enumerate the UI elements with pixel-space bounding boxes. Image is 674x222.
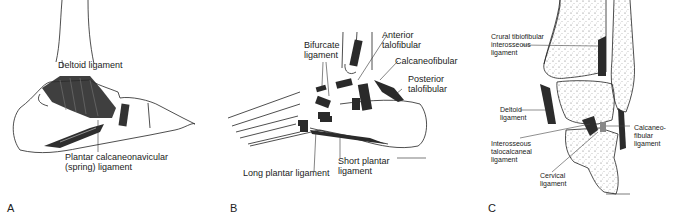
label-bifurcate-ligament: Bifurcate ligament xyxy=(304,40,340,60)
panel-c-drawing xyxy=(544,0,635,194)
label-anterior-talofibular: Anterior talofibular xyxy=(382,30,421,50)
label-spring-ligament: Plantar calcaneonavicular (spring) ligam… xyxy=(65,152,168,172)
label-long-plantar-ligament: Long plantar ligament xyxy=(243,168,330,178)
label-deltoid-ligament: Deltoid ligament xyxy=(58,60,123,70)
ankle-ligaments-figure: Deltoid ligament Plantar calcaneonavicul… xyxy=(0,0,674,222)
label-crural-tibiofibular-interosseous: Crural tibiofibular interosseous ligamen… xyxy=(491,33,544,57)
label-posterior-talofibular: Posterior talofibular xyxy=(408,74,447,94)
panel-letter-c: C xyxy=(488,202,496,214)
panel-a-drawing xyxy=(13,0,195,153)
panel-letter-a: A xyxy=(7,202,14,214)
label-cervical-ligament: Cervical ligament xyxy=(540,172,566,188)
panel-letter-b: B xyxy=(230,202,237,214)
label-calcaneofibular: Calcaneofibular xyxy=(395,56,458,66)
label-calcaneofibular-c: Calcaneo- fibular ligament xyxy=(634,124,666,148)
label-interosseous-talocalcaneal: Interosseous talocalcaneal ligament xyxy=(491,140,532,164)
label-short-plantar-ligament: Short plantar ligament xyxy=(338,156,390,176)
label-deltoid-ligament-c: Deltoid ligament xyxy=(500,106,526,122)
anatomical-drawings xyxy=(0,0,674,222)
